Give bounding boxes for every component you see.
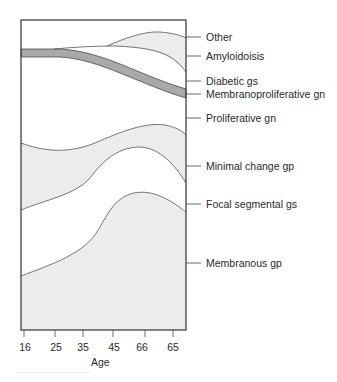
x-tick-label: 16 [19, 341, 31, 353]
x-tick-label: 25 [50, 341, 62, 353]
band-membranoproliferative-gn [21, 49, 186, 98]
x-tick-label: 45 [108, 341, 120, 353]
label-membranous-gp: Membranous gp [206, 257, 282, 269]
x-axis-ticks [24, 330, 173, 337]
decorative-line [16, 372, 92, 373]
label-proliferative-gn: Proliferative gn [206, 112, 276, 124]
label-other: Other [206, 31, 232, 43]
diagram-canvas [0, 0, 337, 382]
legend-leader-lines [186, 37, 201, 263]
label-focal-segmental-gs: Focal segmental gs [206, 198, 297, 210]
label-amyloidosis: Amyloidoisis [206, 50, 264, 62]
label-minimal-change-gp: Minimal change gp [206, 160, 294, 172]
x-tick-label: 35 [77, 341, 89, 353]
region-membranous-gp [21, 192, 186, 330]
label-membranoproliferative-gn: Membranoproliferative gn [206, 88, 325, 100]
x-tick-label: 65 [167, 341, 179, 353]
x-axis-title: Age [91, 356, 110, 368]
diagram: Other Amyloidoisis Diabetic gs Membranop… [0, 0, 337, 382]
x-tick-label: 66 [136, 341, 148, 353]
label-diabetic-gs: Diabetic gs [206, 75, 258, 87]
